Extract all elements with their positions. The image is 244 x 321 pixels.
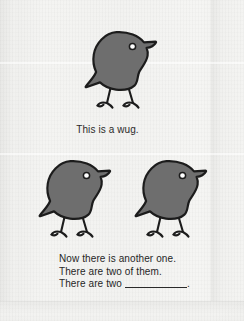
wug-figure-bottom-left [37,158,113,242]
prompt-prefix-text: There are two [59,278,122,289]
wug-body [86,32,156,90]
caption-plural-line-2: There are two of them. [59,266,190,279]
wug-body [40,161,110,219]
caption-plural-block: Now there is another one. There are two … [59,253,190,291]
wug-figure-bottom-right [133,158,209,242]
caption-plural-line-1: Now there is another one. [59,253,190,266]
wug-body [136,161,206,219]
caption-singular: This is a wug. [0,123,215,136]
caption-prompt-line: There are two. [59,278,190,291]
prompt-suffix-text: . [187,278,190,289]
answer-blank[interactable] [125,287,187,288]
wug-eye [83,172,89,178]
wug-figure-top [83,29,159,113]
wug-eye [179,172,185,178]
wug-test-page: This is a wug. Now there is another one.… [0,0,244,321]
wug-eye [129,43,135,49]
